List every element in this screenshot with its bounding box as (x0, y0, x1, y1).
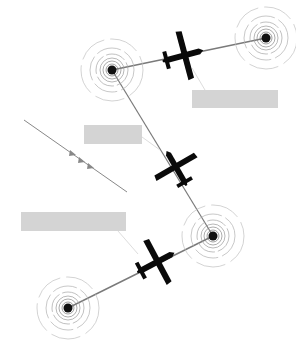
beacon-mid-right (182, 205, 244, 267)
plane-middle-icon (146, 139, 207, 197)
arrow-icon (78, 157, 85, 163)
arrow-icon (69, 150, 76, 156)
beacon-icon (209, 232, 218, 241)
beacon-icon (262, 34, 271, 43)
label-top-right (192, 90, 278, 108)
arrow-icon (87, 163, 94, 169)
diagram-canvas (0, 0, 296, 363)
beacon-icon (108, 66, 117, 75)
beacon-top-right (235, 7, 296, 69)
label-middle (84, 125, 142, 144)
label-bottom-left (21, 212, 126, 231)
plane-bottom-icon (126, 231, 187, 295)
plane-top-icon (156, 26, 210, 85)
beacon-top-left (81, 39, 143, 101)
beacon-bottom-left (37, 277, 99, 339)
beacon-icon (64, 304, 73, 313)
